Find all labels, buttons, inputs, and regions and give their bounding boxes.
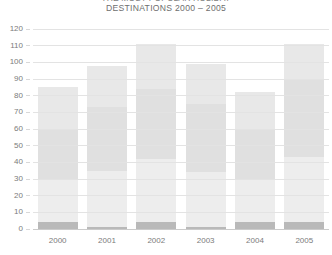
y-axis: 0102030405060708090100110120: [0, 29, 30, 229]
bar-segment: [235, 129, 275, 179]
x-axis-line: [33, 229, 329, 230]
gridline-20: [33, 195, 329, 196]
y-tick-mark: [26, 212, 30, 213]
gridline-10: [33, 212, 329, 213]
x-tick-label: 2004: [230, 236, 279, 245]
gridline-100: [33, 62, 329, 63]
y-tick-mark: [26, 29, 30, 30]
x-tick-label: 2003: [181, 236, 230, 245]
y-tick-mark: [26, 129, 30, 130]
y-tick-mark: [26, 45, 30, 46]
gridline-60: [33, 129, 329, 130]
bar-segment: [186, 64, 226, 104]
gridline-120: [33, 29, 329, 30]
y-tick-mark: [26, 195, 30, 196]
bar-2002[interactable]: [136, 44, 176, 229]
x-tick-label: 2001: [82, 236, 131, 245]
x-axis-labels: 200020012002200320042005: [33, 236, 329, 250]
plot-area: [33, 29, 329, 229]
chart-container: THE MOST POPULAR HOLIDAY DESTINATIONS 20…: [0, 0, 332, 255]
bar-segment: [235, 92, 275, 129]
bar-segment: [136, 159, 176, 222]
bar-2000[interactable]: [38, 87, 78, 229]
x-tick-label: 2000: [33, 236, 82, 245]
bar-2004[interactable]: [235, 92, 275, 229]
bar-segment: [235, 179, 275, 222]
bar-2003[interactable]: [186, 64, 226, 229]
y-tick-mark: [26, 95, 30, 96]
y-tick-mark: [26, 229, 30, 230]
x-tick-label: 2005: [280, 236, 329, 245]
chart-title-block: THE MOST POPULAR HOLIDAY DESTINATIONS 20…: [0, 0, 332, 14]
y-tick-mark: [26, 112, 30, 113]
bar-segment: [38, 87, 78, 129]
gridline-40: [33, 162, 329, 163]
y-tick-mark: [26, 62, 30, 63]
bar-segment: [136, 89, 176, 159]
bar-segment: [186, 172, 226, 227]
y-tick-mark: [26, 179, 30, 180]
gridline-110: [33, 45, 329, 46]
gridline-70: [33, 112, 329, 113]
x-tick-label: 2002: [132, 236, 181, 245]
chart-subtitle: DESTINATIONS 2000 – 2005: [0, 3, 332, 14]
gridline-30: [33, 179, 329, 180]
gridline-80: [33, 95, 329, 96]
bar-2001[interactable]: [87, 66, 127, 229]
y-tick-mark: [26, 79, 30, 80]
gridline-90: [33, 79, 329, 80]
y-tick-mark: [26, 162, 30, 163]
bar-segment: [38, 179, 78, 222]
bar-segment: [38, 129, 78, 179]
gridline-50: [33, 145, 329, 146]
bar-segment: [87, 66, 127, 108]
y-tick-mark: [26, 145, 30, 146]
bar-2005[interactable]: [284, 44, 324, 229]
bar-segment: [136, 44, 176, 89]
